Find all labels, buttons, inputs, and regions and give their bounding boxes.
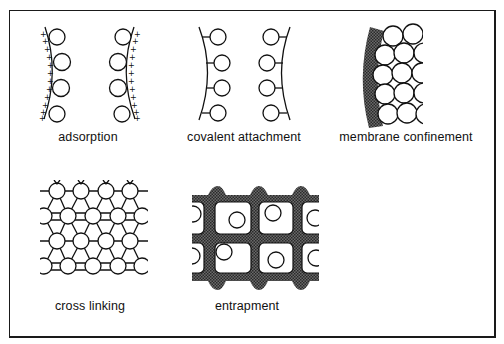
svg-text:+: + [134, 114, 141, 123]
label-covalent-attachment: covalent attachment [187, 130, 301, 144]
cross-linking-diagram [36, 180, 150, 274]
adsorption-diagram: +++ +++ +++ +++ +++ +++ +++ +++ [39, 27, 141, 123]
covalent-attachment-diagram [199, 27, 290, 121]
membrane-confinement-diagram [363, 24, 436, 128]
label-adsorption: adsorption [58, 130, 117, 144]
label-cross-linking: cross linking [55, 299, 125, 313]
immobilization-methods-diagram: +++ +++ +++ +++ +++ +++ +++ +++ [0, 0, 504, 344]
entrapment-diagram [180, 186, 332, 290]
label-membrane-confinement: membrane confinement [339, 130, 472, 144]
svg-text:+: + [39, 114, 46, 123]
label-entrapment: entrapment [215, 299, 279, 313]
